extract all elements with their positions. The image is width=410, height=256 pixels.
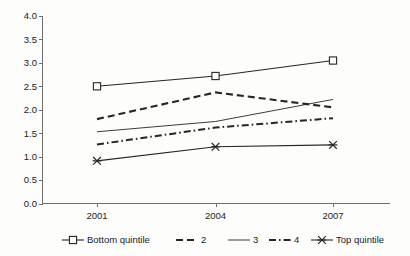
x-axis-labels: 200120042007 <box>86 210 343 221</box>
y-axis-tick-label: 3.5 <box>24 34 37 45</box>
y-axis-tick-label: 0.0 <box>24 198 37 209</box>
legend-label: 3 <box>253 234 258 245</box>
y-axis-labels: 0.00.51.01.52.02.53.03.54.0 <box>24 10 37 209</box>
legend-item-4[interactable]: Top quintile <box>311 234 384 245</box>
data-point-marker <box>211 143 220 151</box>
legend-label: 2 <box>201 234 206 245</box>
legend-item-1[interactable]: 2 <box>176 234 206 245</box>
legend-label: Top quintile <box>336 234 384 245</box>
y-axis-tick-label: 1.5 <box>24 128 37 139</box>
data-point-marker <box>329 141 338 149</box>
legend-item-3[interactable]: 4 <box>269 234 299 245</box>
chart-legend: Bottom quintile234Top quintile <box>62 234 384 245</box>
data-point-marker <box>93 157 102 165</box>
y-axis-tick-label: 2.5 <box>24 81 37 92</box>
chart-canvas: 0.00.51.01.52.02.53.03.54.0 200120042007… <box>0 0 410 256</box>
y-axis-tick-label: 0.5 <box>24 174 37 185</box>
data-point-marker <box>93 83 100 90</box>
line-chart: 0.00.51.01.52.02.53.03.54.0 200120042007… <box>0 0 410 256</box>
x-axis-tick-marks <box>98 204 334 208</box>
legend-label: 4 <box>294 234 299 245</box>
data-point-marker <box>329 57 336 64</box>
x-axis-tick-label: 2001 <box>86 210 107 221</box>
legend-marker-icon <box>318 236 327 244</box>
y-axis-tick-label: 1.0 <box>24 151 37 162</box>
x-axis-tick-label: 2007 <box>322 210 343 221</box>
y-axis-tick-label: 2.0 <box>24 104 37 115</box>
legend-item-2[interactable]: 3 <box>228 234 258 245</box>
data-point-marker <box>212 72 219 79</box>
legend-item-0[interactable]: Bottom quintile <box>62 234 150 245</box>
legend-marker-icon <box>69 236 76 243</box>
y-axis-tick-label: 3.0 <box>24 57 37 68</box>
y-axis-tick-marks <box>39 17 43 205</box>
x-axis-tick-label: 2004 <box>205 210 226 221</box>
y-axis-tick-label: 4.0 <box>24 10 37 21</box>
series-line-3 <box>97 118 333 144</box>
legend-label: Bottom quintile <box>87 234 150 245</box>
